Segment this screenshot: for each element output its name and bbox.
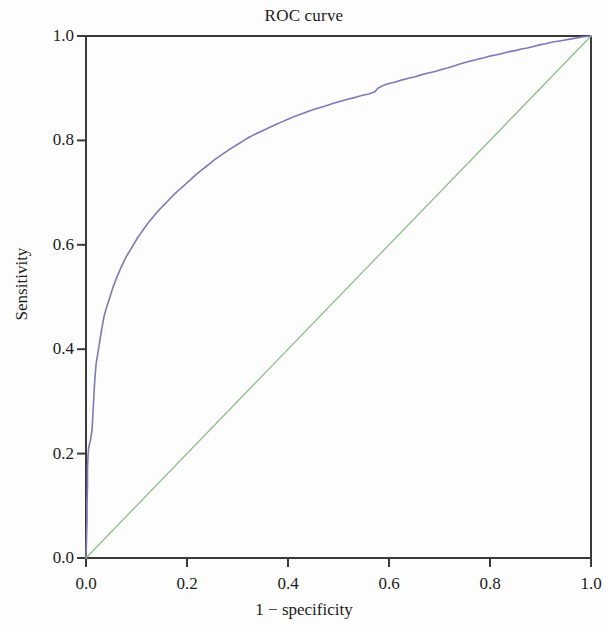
data-series-group (86, 36, 591, 558)
y-axis-ticks (77, 36, 86, 558)
y-axis-tick-label: 0.2 (24, 444, 74, 464)
plot-area (0, 0, 608, 625)
y-axis-tick-label: 0.8 (24, 130, 74, 150)
x-axis-ticks (86, 558, 591, 567)
y-axis-tick-label: 0.0 (24, 548, 74, 568)
x-axis-tick-label: 0.0 (75, 574, 96, 594)
x-axis-tick-label: 0.4 (277, 574, 298, 594)
y-axis-tick-label: 1.0 (24, 26, 74, 46)
x-axis-tick-label: 1.0 (580, 574, 601, 594)
x-axis-tick-label: 0.2 (176, 574, 197, 594)
y-axis-title: Sensitivity (12, 219, 32, 349)
x-axis-tick-label: 0.8 (479, 574, 500, 594)
roc-curve-figure: ROC curve 0.00.20.40.60.81.0 0.00.20.40.… (0, 0, 608, 625)
x-axis-tick-label: 0.6 (378, 574, 399, 594)
series-line (86, 36, 591, 558)
x-axis-title: 1 − specificity (0, 600, 608, 620)
